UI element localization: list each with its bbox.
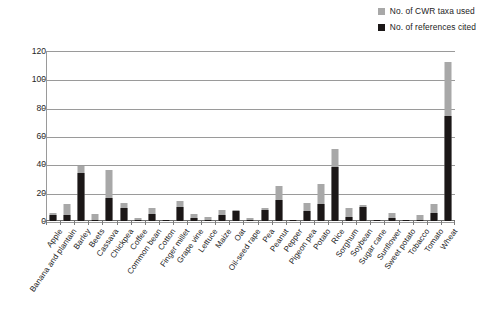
x-axis-tick-mark — [46, 221, 47, 225]
legend-item-cwr-taxa: No. of CWR taxa used — [378, 7, 476, 16]
bar-group — [102, 51, 116, 221]
bar-group — [384, 51, 398, 221]
x-axis-tick-mark — [328, 221, 329, 225]
bar-group — [46, 51, 60, 221]
bar-segment-references — [318, 204, 325, 221]
bar-chart: No. of CWR taxa used No. of references c… — [0, 0, 484, 329]
x-axis-tick-mark — [258, 221, 259, 225]
bar-group — [314, 51, 328, 221]
x-axis-tick-mark — [427, 221, 428, 225]
x-axis-tick-mark — [384, 221, 385, 225]
y-axis-tick-label: 0 — [6, 217, 46, 226]
x-axis-tick-mark — [215, 221, 216, 225]
bar-segment-references — [233, 211, 240, 221]
bar-group — [258, 51, 272, 221]
y-axis-tick-label: 20 — [6, 188, 46, 197]
bar-group — [187, 51, 201, 221]
x-axis-tick-mark — [201, 221, 202, 225]
legend-item-references: No. of references cited — [378, 23, 476, 32]
bar-segment-references — [444, 116, 451, 221]
x-axis-tick-mark — [356, 221, 357, 225]
x-axis-tick-mark — [229, 221, 230, 225]
bar-group — [272, 51, 286, 221]
x-axis-tick-mark — [187, 221, 188, 225]
bar-segment-references — [303, 211, 310, 221]
bar-group — [328, 51, 342, 221]
x-axis-tick-mark — [399, 221, 400, 225]
bar-group — [131, 51, 145, 221]
bar-group — [441, 51, 455, 221]
x-axis-tick-mark — [74, 221, 75, 225]
bar-group — [427, 51, 441, 221]
x-axis-tick-mark — [145, 221, 146, 225]
y-axis-tick-label: 40 — [6, 160, 46, 169]
chart-legend: No. of CWR taxa used No. of references c… — [378, 7, 476, 39]
bar-group — [173, 51, 187, 221]
bar-segment-references — [106, 198, 113, 221]
bar-segment-references — [275, 200, 282, 221]
legend-label-references: No. of references cited — [390, 23, 476, 32]
x-axis-tick-mark — [342, 221, 343, 225]
bars-layer — [46, 51, 455, 221]
bar-group — [342, 51, 356, 221]
x-axis-tick-mark — [117, 221, 118, 225]
bar-group — [88, 51, 102, 221]
legend-label-cwr-taxa: No. of CWR taxa used — [390, 7, 475, 16]
x-axis-tick-mark — [131, 221, 132, 225]
bar-group — [145, 51, 159, 221]
x-axis-tick-mark — [413, 221, 414, 225]
legend-swatch-grey — [378, 8, 385, 15]
bar-segment-references — [430, 213, 437, 222]
x-axis-tick-mark — [286, 221, 287, 225]
x-axis-tick-mark — [314, 221, 315, 225]
bar-group — [201, 51, 215, 221]
bar-group — [370, 51, 384, 221]
x-axis-tick-mark — [88, 221, 89, 225]
x-axis-tick-mark — [272, 221, 273, 225]
x-axis-tick-mark — [60, 221, 61, 225]
bar-segment-references — [78, 173, 85, 221]
x-axis-tick-mark — [159, 221, 160, 225]
x-axis-tick-mark — [454, 221, 455, 225]
x-axis-tick-mark — [173, 221, 174, 225]
bar-group — [300, 51, 314, 221]
bar-group — [159, 51, 173, 221]
bar-group — [74, 51, 88, 221]
bar-segment-references — [176, 207, 183, 221]
y-axis-tick-label: 60 — [6, 132, 46, 141]
bar-group — [286, 51, 300, 221]
legend-swatch-black — [378, 24, 385, 31]
bar-group — [117, 51, 131, 221]
y-axis-tick-label: 120 — [6, 47, 46, 56]
x-axis-tick-mark — [102, 221, 103, 225]
x-axis-labels: AppleBanana and plantainBarleyBeetsCassa… — [46, 227, 455, 327]
bar-group — [243, 51, 257, 221]
bar-segment-references — [261, 210, 268, 221]
bar-group — [356, 51, 370, 221]
bar-group — [60, 51, 74, 221]
bar-segment-references — [148, 214, 155, 221]
bar-group — [399, 51, 413, 221]
x-axis-tick-mark — [370, 221, 371, 225]
x-axis-tick-mark — [441, 221, 442, 225]
bar-group — [215, 51, 229, 221]
bar-segment-references — [360, 207, 367, 221]
bar-segment-references — [120, 208, 127, 221]
x-axis-tick-mark — [243, 221, 244, 225]
y-axis-tick-label: 100 — [6, 75, 46, 84]
bar-segment-references — [332, 167, 339, 221]
y-axis-tick-label: 80 — [6, 103, 46, 112]
x-axis-tick-mark — [300, 221, 301, 225]
bar-group — [413, 51, 427, 221]
bar-group — [229, 51, 243, 221]
